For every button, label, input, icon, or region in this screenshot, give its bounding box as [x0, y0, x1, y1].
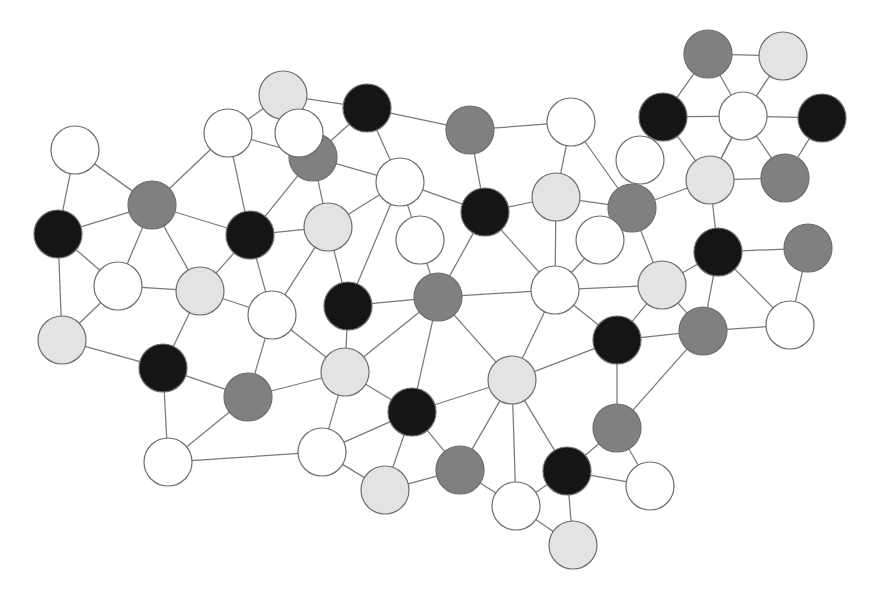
graph-node[interactable]	[761, 154, 809, 202]
graph-edge	[713, 203, 716, 229]
graph-node[interactable]	[719, 92, 767, 140]
graph-edge	[284, 246, 315, 295]
graph-node[interactable]	[248, 291, 296, 339]
graph-node[interactable]	[144, 438, 192, 486]
graph-node[interactable]	[488, 356, 536, 404]
graph-edge	[493, 124, 548, 128]
graph-edge	[584, 443, 599, 456]
graph-edge	[797, 138, 810, 159]
graph-edge	[273, 229, 305, 232]
graph-node[interactable]	[461, 188, 509, 236]
graph-edge	[795, 270, 803, 302]
graph-node[interactable]	[34, 210, 82, 258]
graph-edge	[365, 384, 393, 400]
graph-node[interactable]	[324, 282, 372, 330]
graph-edge	[330, 123, 350, 141]
graph-node[interactable]	[176, 267, 224, 315]
graph-edge	[453, 314, 496, 363]
graph-edge	[169, 149, 212, 189]
graph-edge	[247, 108, 264, 120]
graph-node[interactable]	[616, 136, 664, 184]
graph-edge	[290, 329, 327, 358]
graph-node[interactable]	[224, 373, 272, 421]
graph-node[interactable]	[694, 228, 742, 276]
graph-node[interactable]	[304, 203, 352, 251]
graph-node[interactable]	[492, 482, 540, 530]
graph-node[interactable]	[766, 301, 814, 349]
graph-edge	[584, 141, 618, 189]
graph-node[interactable]	[343, 84, 391, 132]
graph-node[interactable]	[593, 316, 641, 364]
graph-edge	[256, 257, 266, 293]
graph-node[interactable]	[679, 307, 727, 355]
graph-node[interactable]	[139, 344, 187, 392]
graph-edge	[270, 378, 322, 392]
graph-node[interactable]	[576, 216, 624, 264]
graph-edge	[371, 299, 415, 303]
graph-edge	[75, 249, 100, 271]
graph-node[interactable]	[361, 466, 409, 514]
graph-node[interactable]	[128, 181, 176, 229]
graph-edge	[141, 287, 177, 289]
graph-node[interactable]	[51, 126, 99, 174]
graph-edge	[590, 475, 628, 482]
graph-node[interactable]	[94, 262, 142, 310]
graph-node[interactable]	[321, 348, 369, 396]
graph-node[interactable]	[446, 106, 494, 154]
graph-edge	[677, 135, 697, 161]
graph-edge	[472, 400, 501, 450]
graph-node[interactable]	[626, 462, 674, 510]
graph-edge	[726, 327, 767, 330]
graph-edge	[555, 220, 556, 267]
graph-node[interactable]	[798, 94, 846, 142]
graph-edge	[318, 179, 323, 204]
graph-edge	[508, 202, 534, 208]
graph-edge	[632, 303, 648, 322]
graph-node[interactable]	[638, 261, 686, 309]
graph-edge	[707, 275, 713, 309]
graph-node[interactable]	[593, 404, 641, 452]
graph-edge	[342, 464, 366, 478]
graph-node[interactable]	[547, 98, 595, 146]
graph-edge	[357, 203, 391, 285]
graph-node[interactable]	[759, 32, 807, 80]
graph-edge	[127, 226, 143, 265]
graph-node[interactable]	[784, 224, 832, 272]
graph-edge	[569, 494, 571, 522]
graph-edge	[756, 135, 772, 159]
graph-edge	[173, 312, 190, 348]
node-layer	[34, 30, 846, 569]
graph-edge	[222, 298, 250, 307]
graph-node[interactable]	[436, 446, 484, 494]
graph-node[interactable]	[532, 173, 580, 221]
graph-edge	[734, 268, 774, 308]
graph-node[interactable]	[686, 156, 734, 204]
graph-node[interactable]	[376, 158, 424, 206]
graph-node[interactable]	[543, 447, 591, 495]
graph-edge	[422, 190, 464, 205]
graph-edge	[628, 448, 638, 466]
graph-node[interactable]	[204, 109, 252, 157]
graph-edge	[343, 421, 391, 442]
graph-node[interactable]	[414, 273, 462, 321]
graph-node[interactable]	[388, 388, 436, 436]
graph-edge	[766, 117, 799, 118]
graph-edge	[163, 225, 189, 271]
graph-node[interactable]	[549, 521, 597, 569]
graph-edge	[233, 155, 245, 212]
graph-edge	[733, 179, 762, 180]
graph-node[interactable]	[396, 216, 444, 264]
graph-node[interactable]	[531, 266, 579, 314]
graph-edge	[533, 348, 595, 372]
graph-node[interactable]	[684, 30, 732, 78]
graph-edge	[677, 302, 687, 314]
graph-node[interactable]	[298, 428, 346, 476]
graph-edge	[654, 188, 689, 200]
graph-node[interactable]	[38, 316, 86, 364]
graph-edge	[573, 304, 599, 325]
graph-node[interactable]	[639, 93, 687, 141]
graph-node[interactable]	[226, 211, 274, 259]
graph-edge	[578, 286, 639, 289]
graph-node[interactable]	[275, 109, 323, 157]
graph-edge	[389, 113, 447, 125]
